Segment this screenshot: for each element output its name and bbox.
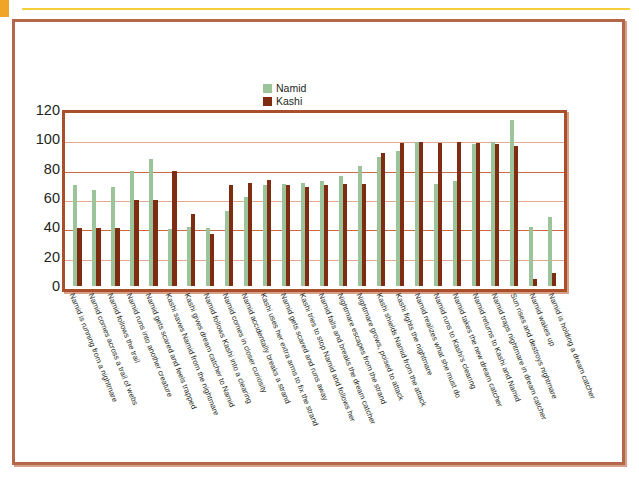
- bar-group: [258, 116, 277, 286]
- bar-group: [87, 116, 106, 286]
- y-axis-tick-label: 40: [44, 219, 60, 235]
- chart-legend: NamidKashi: [263, 82, 306, 107]
- bar-kashi: [476, 143, 480, 286]
- bar-kashi: [438, 143, 442, 286]
- bar-group: [239, 116, 258, 286]
- bar-group: [68, 116, 87, 286]
- top-accent-rule: [22, 8, 630, 10]
- bar-group: [504, 116, 523, 286]
- bar-kashi: [191, 214, 195, 286]
- bar-kashi: [305, 187, 309, 286]
- bar-group: [466, 116, 485, 286]
- bar-kashi: [153, 200, 157, 286]
- bar-kashi: [248, 183, 252, 286]
- bar-group: [390, 116, 409, 286]
- bar-kashi: [77, 228, 81, 286]
- plot-area: [62, 110, 567, 292]
- bar-namid: [529, 227, 533, 287]
- bar-kashi: [324, 185, 328, 286]
- bar-kashi: [134, 200, 138, 286]
- bar-kashi: [343, 184, 347, 286]
- bar-group: [447, 116, 466, 286]
- x-axis-labels: Namid is running from a nightmareNamid c…: [62, 292, 567, 482]
- legend-label: Kashi: [276, 95, 302, 107]
- y-axis-tick-label: 60: [44, 190, 60, 206]
- bar-kashi: [495, 144, 499, 286]
- bar-group: [277, 116, 296, 286]
- bar-group: [220, 116, 239, 286]
- bar-kashi: [419, 142, 423, 287]
- bar-group: [523, 116, 542, 286]
- bar-kashi: [229, 185, 233, 286]
- y-axis: 020406080100120: [14, 104, 60, 298]
- bar-group: [296, 116, 315, 286]
- y-axis-tick-label: 120: [36, 102, 60, 118]
- bar-series-container: [68, 116, 561, 286]
- bar-kashi: [400, 143, 404, 286]
- bar-kashi: [381, 153, 385, 286]
- legend-swatch-icon: [263, 97, 272, 106]
- bar-group: [106, 116, 125, 286]
- corner-accent-swatch: [0, 0, 9, 17]
- bar-group: [144, 116, 163, 286]
- y-axis-tick-label: 100: [36, 131, 60, 147]
- y-axis-tick-label: 80: [44, 161, 60, 177]
- bar-kashi: [286, 185, 290, 286]
- bar-group: [485, 116, 504, 286]
- y-axis-tick-label: 0: [52, 278, 60, 294]
- legend-label: Namid: [276, 82, 306, 94]
- bar-kashi: [115, 228, 119, 286]
- bar-kashi: [514, 146, 518, 286]
- bar-group: [163, 116, 182, 286]
- slide-canvas: NamidKashi 020406080100120 Namid is runn…: [0, 0, 639, 484]
- y-axis-tick-label: 20: [44, 249, 60, 265]
- bar-group: [428, 116, 447, 286]
- bar-kashi: [362, 184, 366, 286]
- bar-kashi: [172, 171, 176, 286]
- legend-item: Namid: [263, 82, 306, 94]
- bar-kashi: [552, 273, 556, 286]
- legend-swatch-icon: [263, 84, 272, 93]
- bar-kashi: [210, 234, 214, 286]
- legend-item: Kashi: [263, 95, 306, 107]
- bar-kashi: [457, 142, 461, 287]
- bar-group: [125, 116, 144, 286]
- bar-group: [542, 116, 561, 286]
- bar-group: [409, 116, 428, 286]
- bar-kashi: [96, 228, 100, 286]
- bar-group: [353, 116, 372, 286]
- bar-group: [315, 116, 334, 286]
- bar-group: [182, 116, 201, 286]
- bar-group: [334, 116, 353, 286]
- bar-kashi: [267, 180, 271, 286]
- bar-group: [372, 116, 391, 286]
- bar-group: [201, 116, 220, 286]
- bar-kashi: [533, 279, 537, 286]
